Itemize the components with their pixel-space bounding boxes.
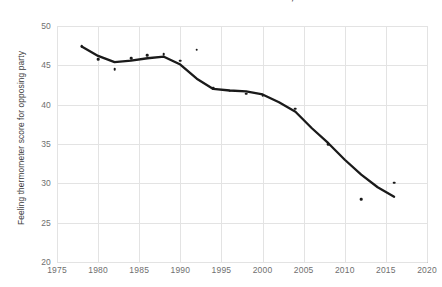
data-point (163, 53, 166, 56)
x-axis-tick-label: 1975 (35, 265, 79, 275)
data-point (179, 59, 182, 62)
data-point (360, 198, 363, 201)
gridline-horizontal (57, 262, 427, 263)
data-point (113, 68, 116, 71)
x-axis-tick-label: 2010 (323, 265, 367, 275)
data-point (130, 57, 133, 60)
data-point (97, 58, 100, 61)
gridline-vertical (427, 26, 428, 262)
data-point (80, 45, 83, 48)
data-point (393, 181, 396, 184)
x-axis-tick-label: 2005 (282, 265, 326, 275)
data-point (294, 107, 297, 110)
y-axis-tick-label: 50 (17, 21, 51, 31)
x-axis-tick-label: 1995 (199, 265, 243, 275)
chart-title: FIGURE 3A: AMERICANS' FEELINGS TOWARD TH… (8, 0, 428, 5)
data-point (212, 87, 215, 90)
data-point (195, 48, 198, 51)
plot-area (57, 26, 427, 262)
trend-line (57, 26, 427, 262)
x-axis-tick-label: 2000 (241, 265, 285, 275)
data-point (327, 143, 330, 146)
x-axis-tick-label: 2015 (364, 265, 408, 275)
y-axis-label: Feeling thermometer score for opposing p… (16, 38, 26, 238)
x-axis-tick-label: 1985 (117, 265, 161, 275)
x-axis-tick-label: 1980 (76, 265, 120, 275)
data-point (261, 94, 264, 97)
data-point (245, 92, 248, 95)
data-point (146, 54, 149, 57)
x-axis-tick-label: 1990 (158, 265, 202, 275)
x-axis-tick-label: 2020 (405, 265, 442, 275)
data-point (228, 89, 231, 92)
